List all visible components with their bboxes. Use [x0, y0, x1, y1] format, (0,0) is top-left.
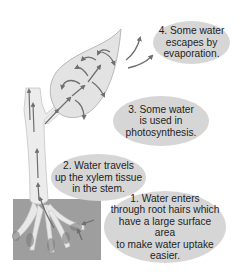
label-step-3-photosynthesis: 3. Some water is used in photosynthesis. [113, 96, 209, 146]
evaporation-arrows [126, 38, 152, 68]
label-step-1-root-hairs: 1. Water enters through root hairs which… [104, 191, 226, 263]
plant-water-transport-diagram: 4. Some water escapes by evaporation. 3.… [0, 0, 241, 278]
label-step-4-evaporation: 4. Some water escapes by evaporation. [153, 21, 230, 64]
